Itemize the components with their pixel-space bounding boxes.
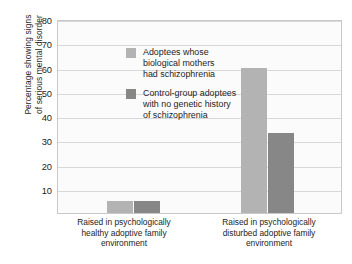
legend-label-light: Adoptees whose biological mothers had sc…	[143, 47, 215, 81]
chart-legend: Adoptees whose biological mothers had sc…	[126, 47, 306, 128]
legend-label-light-line-3: had schizophrenia	[143, 69, 215, 79]
y-axis-tick-label: 60	[24, 65, 52, 75]
bar	[134, 201, 160, 213]
y-axis-tick-label: 30	[24, 137, 52, 147]
x-axis-category-label-0-line-3: environment	[62, 238, 186, 249]
x-axis-category-label-0-line-2: healthy adoptive family	[62, 228, 186, 239]
y-axis-tick-label: 50	[24, 89, 52, 99]
bar	[268, 133, 294, 213]
legend-item-biological-mothers-schizophrenia: Adoptees whose biological mothers had sc…	[126, 47, 306, 81]
legend-label-light-line-2: biological mothers	[143, 58, 215, 68]
x-axis-category-label-1-line-2: disturbed adoptive family	[196, 228, 342, 239]
plot-area: 8070605040302010 Adoptees whose biologic…	[57, 20, 342, 214]
legend-item-control-group: Control-group adoptees with no genetic h…	[126, 88, 306, 122]
x-axis-category-label-1: Raised in psychologically disturbed adop…	[196, 217, 342, 249]
legend-swatch-icon-dark	[126, 89, 136, 99]
y-axis-tick-label: 10	[24, 186, 52, 196]
y-axis-tick-label: 40	[24, 113, 52, 123]
bar	[107, 201, 133, 213]
legend-label-dark: Control-group adoptees with no genetic h…	[143, 88, 236, 122]
y-axis-tick-label: 70	[24, 40, 52, 50]
legend-label-dark-line-2: with no genetic history	[143, 99, 231, 109]
y-axis-tick-label: 20	[24, 162, 52, 172]
y-axis-tick-label: 80	[24, 16, 52, 26]
x-axis-category-label-0-line-1: Raised in psychologically	[62, 217, 186, 228]
x-axis-category-label-1-line-1: Raised in psychologically	[196, 217, 342, 228]
legend-swatch-icon-light	[126, 48, 136, 58]
x-axis-category-label-1-line-3: environment	[196, 238, 342, 249]
legend-label-dark-line-1: Control-group adoptees	[143, 88, 236, 98]
legend-label-dark-line-3: of schizophrenia	[143, 110, 208, 120]
x-axis-category-label-0: Raised in psychologically healthy adopti…	[62, 217, 186, 249]
chart-figure: Percentage showing signs of serious ment…	[0, 0, 352, 264]
legend-label-light-line-1: Adoptees whose	[143, 47, 209, 57]
